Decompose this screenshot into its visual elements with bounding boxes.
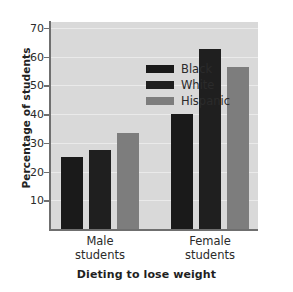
gridline: [50, 57, 258, 58]
y-axis-tick-label: 40: [2, 108, 44, 121]
x-axis-group-label-line: students: [160, 248, 260, 262]
y-axis-tick-labels: 10203040506070: [0, 0, 44, 292]
y-axis-tick-label: 30: [2, 136, 44, 149]
legend-item: Black: [146, 62, 230, 76]
y-axis-tick-mark: [44, 85, 50, 87]
bar-hispanic-male: [117, 133, 139, 229]
y-axis-tick-mark: [44, 57, 50, 59]
x-axis-title: Dieting to lose weight: [0, 268, 293, 281]
y-axis-tick-label: 10: [2, 194, 44, 207]
legend-label: White: [181, 78, 214, 92]
legend-item: White: [146, 78, 230, 92]
x-axis-group-label-line: students: [50, 248, 150, 262]
legend-swatch-icon: [146, 81, 174, 89]
y-axis-tick-mark: [44, 200, 50, 202]
y-axis-tick-label: 60: [2, 50, 44, 63]
plot-area: BlackWhiteHispanic: [50, 22, 258, 229]
legend-label: Black: [181, 62, 212, 76]
y-axis-tick-label: 70: [2, 21, 44, 34]
y-axis-tick-mark: [44, 143, 50, 145]
bar-white-male: [89, 150, 111, 229]
x-axis-line: [49, 229, 258, 231]
bar-black-male: [61, 157, 83, 229]
x-axis-group-label: Malestudents: [50, 234, 150, 262]
legend-label: Hispanic: [181, 94, 230, 108]
legend-item: Hispanic: [146, 94, 230, 108]
y-axis-tick-mark: [44, 28, 50, 30]
bar-hispanic-female: [227, 67, 249, 229]
y-axis-line: [49, 21, 51, 230]
x-axis-group-label: Femalestudents: [160, 234, 260, 262]
chart-legend: BlackWhiteHispanic: [146, 62, 230, 110]
legend-swatch-icon: [146, 97, 174, 105]
bar-black-female: [171, 114, 193, 229]
x-axis-group-label-line: Female: [160, 234, 260, 248]
y-axis-tick-mark: [44, 114, 50, 116]
gridline: [50, 28, 258, 29]
bar-chart-figure: Percentage of students 10203040506070 Bl…: [0, 0, 293, 292]
y-axis-tick-label: 20: [2, 165, 44, 178]
x-axis-group-label-line: Male: [50, 234, 150, 248]
y-axis-tick-mark: [44, 172, 50, 174]
legend-swatch-icon: [146, 65, 174, 73]
y-axis-tick-label: 50: [2, 79, 44, 92]
